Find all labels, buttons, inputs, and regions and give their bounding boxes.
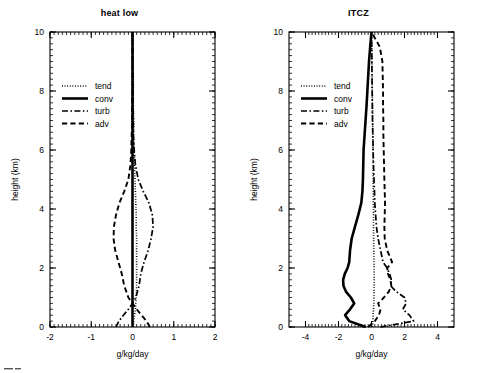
plot-area-heat-low: -2-10120246810g/kg/dayheight (km)tendcon… xyxy=(0,0,239,373)
legend-label-tend: tend xyxy=(334,81,351,91)
x-tick-label: 2 xyxy=(402,332,407,342)
y-tick-label: 6 xyxy=(39,145,44,155)
corner-artifact xyxy=(4,366,26,372)
plot-area-itcz: -4-20240246810g/kg/dayheight (km)tendcon… xyxy=(239,0,478,373)
legend-label-turb: turb xyxy=(95,106,110,116)
series-line-conv xyxy=(343,32,371,327)
y-tick-label: 2 xyxy=(39,263,44,273)
figure-container: heat low -2-10120246810g/kg/dayheight (k… xyxy=(0,0,478,373)
x-axis-label: g/kg/day xyxy=(355,349,388,359)
x-tick-label: 2 xyxy=(213,332,218,342)
y-tick-label: 6 xyxy=(278,145,283,155)
y-tick-label: 10 xyxy=(35,27,45,37)
x-tick-label: -2 xyxy=(335,332,343,342)
x-tick-label: 4 xyxy=(435,332,440,342)
legend-label-adv: adv xyxy=(95,119,109,129)
series-line-adv xyxy=(368,32,392,327)
x-axis-label: g/kg/day xyxy=(116,349,149,359)
y-tick-label: 4 xyxy=(278,204,283,214)
x-tick-label: 0 xyxy=(369,332,374,342)
legend-label-tend: tend xyxy=(95,81,112,91)
series-line-turb xyxy=(116,32,153,327)
x-tick-label: -1 xyxy=(87,332,95,342)
y-tick-label: 8 xyxy=(278,86,283,96)
y-axis-label: height (km) xyxy=(249,158,259,201)
x-tick-label: 0 xyxy=(130,332,135,342)
x-tick-label: -2 xyxy=(46,332,54,342)
series-line-turb xyxy=(372,32,414,327)
chart-panel-itcz: ITCZ -4-20240246810g/kg/dayheight (km)te… xyxy=(239,0,478,373)
legend-label-adv: adv xyxy=(334,119,348,129)
y-tick-label: 8 xyxy=(39,86,44,96)
x-tick-label: -4 xyxy=(302,332,310,342)
legend-label-conv: conv xyxy=(95,94,114,104)
legend-label-conv: conv xyxy=(334,94,353,104)
y-tick-label: 4 xyxy=(39,204,44,214)
y-tick-label: 0 xyxy=(39,322,44,332)
y-tick-label: 10 xyxy=(274,27,284,37)
x-tick-label: 1 xyxy=(171,332,176,342)
legend-label-turb: turb xyxy=(334,106,349,116)
y-tick-label: 0 xyxy=(278,322,283,332)
y-tick-label: 2 xyxy=(278,263,283,273)
y-axis-label: height (km) xyxy=(10,158,20,201)
chart-panel-heat-low: heat low -2-10120246810g/kg/dayheight (k… xyxy=(0,0,239,373)
